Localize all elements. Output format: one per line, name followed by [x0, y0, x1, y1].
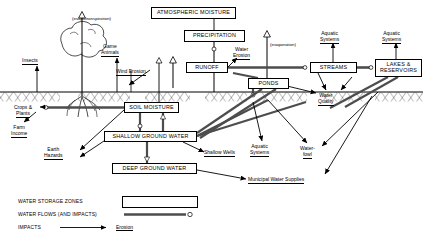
shallow-gw-to-soil [160, 113, 165, 131]
impact-label-insects: Insects [22, 58, 38, 65]
soil-to-shallow-gw [138, 113, 142, 131]
label-evapotranspiration: (evapotranspiration) [72, 16, 111, 21]
legend: WATER STORAGE ZONES WATER FLOWS (AND IMP… [18, 196, 198, 235]
storage-zone-soil-moisture[interactable]: SOIL MOISTURE [124, 102, 179, 113]
storage-zone-precipitation[interactable]: PRECIPITATION [184, 30, 245, 42]
storage-zone-deep-ground-water[interactable]: DEEP GROUND WATER [112, 163, 197, 174]
impact-label-municipal-water-supplies: Municipal Water Supplies [248, 177, 304, 184]
legend-row-water-storage-zones: WATER STORAGE ZONES [18, 196, 198, 209]
impact-label-wind-erosion: Wind Erosion [116, 69, 146, 76]
shallow-to-deep-gw [144, 142, 149, 163]
legend-row-impacts: IMPACTS Erosion [18, 222, 198, 235]
storage-zone-atmospheric-moisture[interactable]: ATMOSPHERIC MOISTURE [151, 7, 236, 19]
legend-label-water-storage-zones: WATER STORAGE ZONES [18, 198, 83, 204]
tree-illustration [61, 21, 107, 117]
legend-symbol-flow-arrow [122, 209, 196, 220]
storage-zone-shallow-ground-water[interactable]: SHALLOW GROUND WATER [104, 131, 197, 142]
soil-hatching [0, 93, 423, 102]
storage-zone-runoff[interactable]: RUNOFF [186, 62, 228, 73]
impact-label-game-animals: Game Animals [101, 44, 119, 57]
aquatic-ponds-line2: Systems [250, 150, 269, 157]
earth-hazards-line2: Hazards [44, 153, 63, 160]
impact-label-water-quality: Water Quality [318, 93, 334, 106]
hydrology-diagram: ATMOSPHERIC MOISTURE PRECIPITATION RUNOF… [0, 0, 423, 240]
impact-label-crops-plants: Crops & Plants [14, 105, 32, 118]
impact-label-aquatic-systems-lakes: Aquatic Systems [382, 31, 401, 44]
legend-example-erosion: Erosion [116, 224, 133, 231]
evaporation-arrow-runoff [170, 57, 177, 89]
storage-zone-streams[interactable]: STREAMS [310, 62, 357, 73]
water-quality-line2: Quality [318, 99, 334, 106]
farm-income-line2: Income [11, 131, 27, 138]
legend-symbol-impact-arrow [58, 222, 114, 233]
crops-line2: Plants [16, 111, 30, 118]
legend-symbol-storage-box [122, 196, 198, 208]
label-evaporation: (evaporation) [270, 42, 296, 47]
impact-label-water-erosion: Water Erosion [233, 47, 250, 60]
storage-zone-lakes-reservoirs[interactable]: LAKES & RESERVOIRS [375, 59, 422, 77]
legend-label-impacts: IMPACTS [18, 224, 41, 230]
impact-label-earth-hazards: Earth Hazards [44, 147, 63, 160]
aquatic-lakes-line2: Systems [382, 37, 401, 44]
impact-label-aquatic-systems-streams: Aquatic Systems [320, 31, 339, 44]
water-fowl-line2: fowl [303, 152, 312, 159]
water-erosion-line2: Erosion [233, 53, 250, 60]
impact-label-water-fowl: Water- fowl [300, 146, 315, 159]
impact-label-farm-income: Farm Income [11, 125, 27, 138]
impact-label-aquatic-systems-ponds: Aquatic Systems [250, 144, 269, 157]
game-animals-line2: Animals [101, 50, 119, 57]
aquatic-streams-line2: Systems [320, 37, 339, 44]
legend-label-water-flows: WATER FLOWS (AND IMPACTS) [18, 211, 97, 217]
storage-zone-ponds[interactable]: PONDS [248, 78, 289, 89]
legend-row-water-flows: WATER FLOWS (AND IMPACTS) [18, 209, 198, 222]
impact-label-shallow-wells: Shallow Wells [204, 150, 235, 157]
